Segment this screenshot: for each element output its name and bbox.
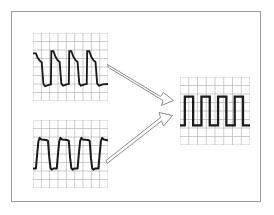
- waveform-trace-decaying-sawtooth: [33, 33, 108, 101]
- waveform-combination-figure: [0, 0, 274, 215]
- right-waveform-panel: [180, 77, 250, 145]
- waveform-trace-rounded-square: [33, 120, 108, 188]
- bottom-left-waveform-panel: [33, 120, 108, 188]
- waveform-trace-clean-square: [180, 77, 250, 145]
- top-left-waveform-panel: [33, 33, 108, 101]
